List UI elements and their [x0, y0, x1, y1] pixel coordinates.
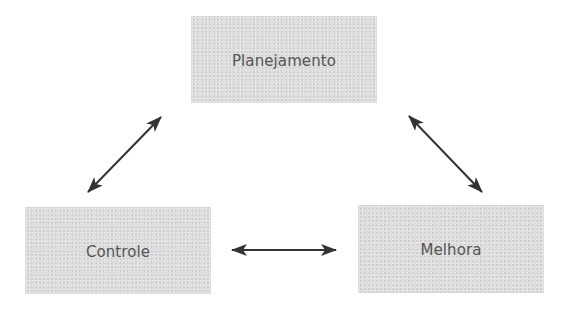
node-melhora: Melhora: [358, 205, 544, 293]
node-controle: Controle: [25, 207, 211, 294]
arrow-planejamento-controle: [88, 117, 161, 192]
node-label-melhora: Melhora: [420, 241, 481, 259]
arrow-planejamento-melhora: [409, 116, 482, 192]
node-label-controle: Controle: [86, 243, 150, 261]
node-label-planejamento: Planejamento: [232, 52, 336, 70]
node-planejamento: Planejamento: [191, 16, 377, 103]
